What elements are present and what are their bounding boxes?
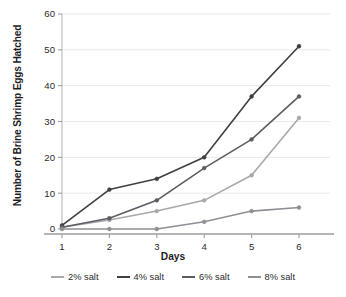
y-tick-label: 50 <box>44 44 55 55</box>
data-point <box>250 173 254 177</box>
legend-swatch-icon <box>248 276 261 278</box>
series-line <box>62 208 299 230</box>
legend-item[interactable]: 6% salt <box>173 272 239 282</box>
data-point <box>202 166 206 170</box>
data-point <box>108 216 112 220</box>
y-tick-label: 40 <box>44 80 55 91</box>
y-axis-ticks: 0102030405060 <box>44 8 62 234</box>
data-point <box>297 116 301 120</box>
legend-item[interactable]: 4% salt <box>108 272 174 282</box>
series-line <box>62 46 299 225</box>
y-tick-label: 10 <box>44 188 55 199</box>
legend-label: 8% salt <box>265 272 296 282</box>
x-axis-ticks: 123456 <box>59 234 301 252</box>
data-point <box>108 188 112 192</box>
data-point <box>155 198 159 202</box>
legend-swatch-icon <box>182 276 195 278</box>
data-point <box>202 155 206 159</box>
data-point <box>250 95 254 99</box>
data-point <box>297 206 301 210</box>
data-point <box>297 44 301 48</box>
data-point <box>202 220 206 224</box>
data-point <box>250 138 254 142</box>
data-point <box>155 209 159 213</box>
data-point <box>60 227 64 231</box>
data-point <box>250 209 254 213</box>
axis-lines <box>44 14 334 234</box>
chart-legend: 2% salt4% salt6% salt8% salt <box>0 272 346 282</box>
legend-label: 6% salt <box>199 272 230 282</box>
y-tick-label: 20 <box>44 152 55 163</box>
data-series <box>60 44 301 231</box>
line-chart: Number of Brine Shrimp Eggs Hatched 0102… <box>0 0 346 297</box>
y-tick-label: 30 <box>44 116 55 127</box>
data-point <box>297 95 301 99</box>
gridlines <box>62 14 330 193</box>
data-point <box>155 177 159 181</box>
data-point <box>108 227 112 231</box>
legend-item[interactable]: 8% salt <box>239 272 305 282</box>
data-point <box>202 198 206 202</box>
legend-swatch-icon <box>117 276 130 278</box>
legend-label: 2% salt <box>68 272 99 282</box>
x-axis-title: Days <box>0 251 346 262</box>
legend-swatch-icon <box>51 276 64 278</box>
y-tick-label: 0 <box>50 223 55 234</box>
legend-label: 4% salt <box>134 272 165 282</box>
y-tick-label: 60 <box>44 8 55 19</box>
data-point <box>155 227 159 231</box>
legend-item[interactable]: 2% salt <box>42 272 108 282</box>
